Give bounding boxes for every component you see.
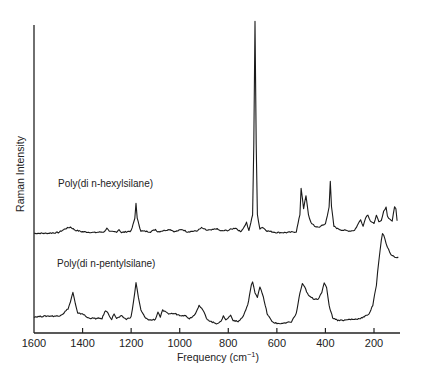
x-axis-ticks [83, 328, 374, 333]
x-axis-title: Frequency (cm−1) [177, 350, 259, 363]
raman-spectra-chart: 1600140012001000800600400200 Frequency (… [0, 0, 422, 382]
x-tick-label: 1400 [70, 337, 94, 349]
y-axis-title: Raman Intensity [14, 135, 26, 212]
series-label-pentylsilane: Poly(di n-pentylsilane) [57, 258, 155, 269]
series-label-hexylsilane: Poly(di n-hexylsilane) [58, 178, 153, 189]
x-tick-label: 1000 [167, 337, 191, 349]
x-tick-label: 800 [219, 337, 237, 349]
x-tick-label: 200 [365, 337, 383, 349]
x-tick-label: 400 [316, 337, 334, 349]
spectrum-trace-hexylsilane [34, 21, 397, 234]
x-tick-label: 1200 [119, 337, 143, 349]
x-tick-label: 1600 [22, 337, 46, 349]
x-tick-label: 600 [268, 337, 286, 349]
spectrum-trace-pentylsilane [34, 234, 398, 324]
x-axis-tick-labels: 1600140012001000800600400200 [22, 337, 383, 349]
